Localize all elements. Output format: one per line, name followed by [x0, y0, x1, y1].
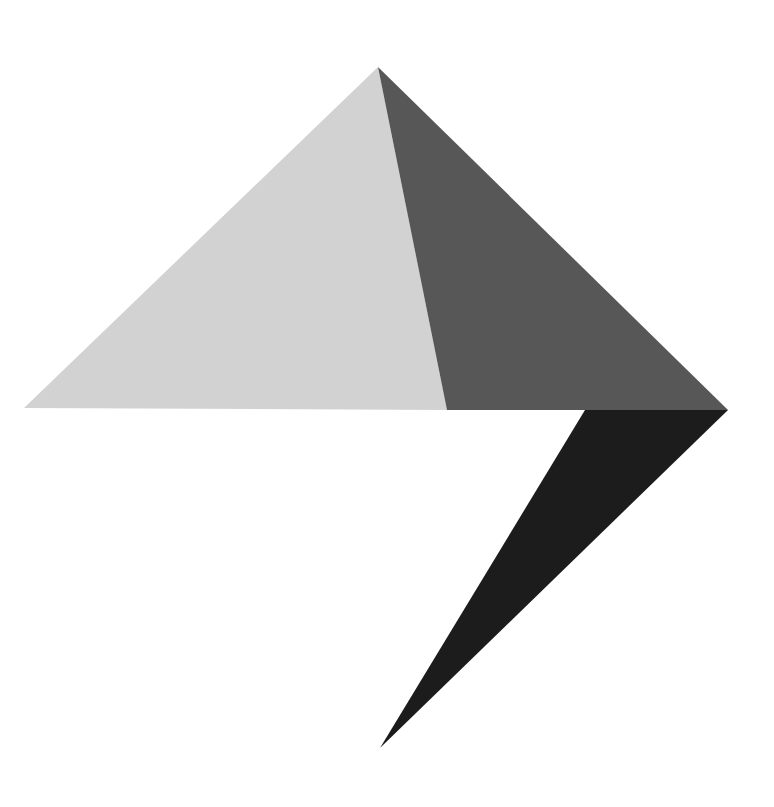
- artwork-stage: [0, 0, 774, 807]
- geometric-composition: [0, 0, 774, 807]
